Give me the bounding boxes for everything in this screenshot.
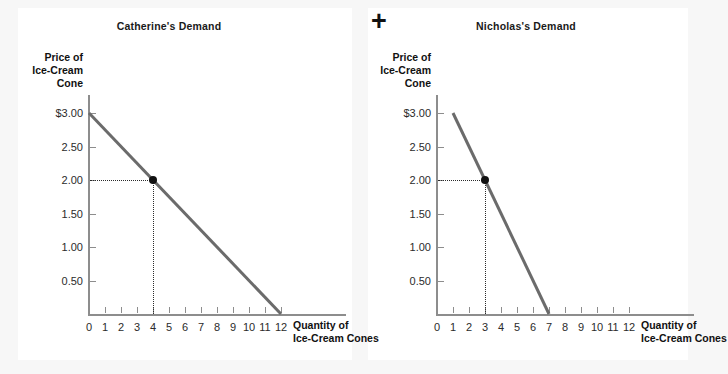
- demand-curve-layer: [364, 0, 728, 374]
- demand-curve: [453, 113, 549, 314]
- chart-catherines-demand: Catherine's Demand 0.501.001.502.002.50$…: [0, 0, 364, 374]
- demand-curve-layer: [0, 0, 364, 374]
- equilibrium-point-marker: [481, 176, 489, 184]
- equilibrium-point-marker: [149, 176, 157, 184]
- guide-line-horizontal: [90, 180, 154, 181]
- guide-line-vertical: [485, 180, 486, 314]
- guide-line-horizontal: [438, 180, 486, 181]
- chart-nicholas-demand: Nicholas's Demand 0.501.001.502.002.50$3…: [364, 0, 728, 374]
- guide-line-vertical: [153, 180, 154, 314]
- figure-stage: Catherine's Demand 0.501.001.502.002.50$…: [0, 0, 728, 374]
- demand-curve: [89, 113, 281, 314]
